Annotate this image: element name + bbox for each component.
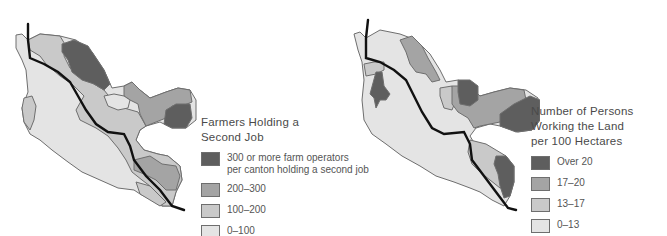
legend-label: 100–200 (227, 204, 266, 216)
legend-label: 0–100 (227, 225, 255, 236)
legend-item-0-13: 0–13 (531, 219, 667, 233)
swatch-dark (201, 152, 220, 166)
legend-label: 13–17 (557, 198, 585, 210)
legend-label: Over 20 (557, 156, 593, 168)
map-farmers-second-job (0, 0, 200, 236)
swatch-lightest (531, 219, 550, 233)
legend-item-13-17: 13–17 (531, 198, 667, 212)
legend-label: 0–13 (557, 219, 579, 231)
legend-title-line2: Working the Land (531, 119, 667, 134)
swatch-medium (201, 183, 220, 197)
region-dark-center (458, 80, 478, 106)
legend-item-over-20: Over 20 (531, 156, 667, 170)
swatch-medium (531, 177, 550, 191)
legend-title-line3: per 100 Hectares (531, 134, 667, 149)
legend-label: 200–300 (227, 183, 266, 195)
swatch-dark (531, 156, 550, 170)
legend-label: 17–20 (557, 177, 585, 189)
map-persons-working-land (340, 0, 540, 236)
swatch-lightest (201, 225, 220, 236)
swatch-light (531, 198, 550, 212)
legend-persons-working-land: Number of Persons Working the Land per 1… (531, 104, 667, 233)
legend-title: Number of Persons Working the Land per 1… (531, 104, 667, 149)
legend-item-17-20: 17–20 (531, 177, 667, 191)
swatch-light (201, 204, 220, 218)
legend-title-line1: Number of Persons (531, 104, 667, 119)
